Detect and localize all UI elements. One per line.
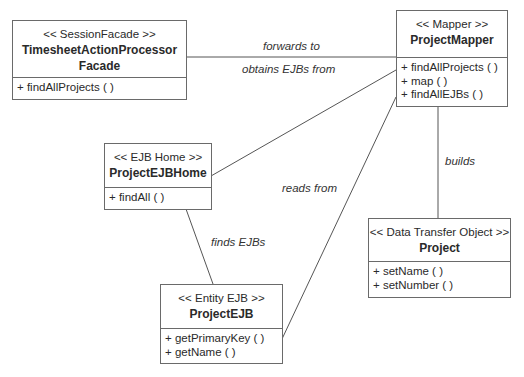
- class-name: ProjectEJBHome: [105, 165, 211, 181]
- label-finds-ejbs: finds EJBs: [211, 236, 265, 248]
- class-header: << EJB Home >> ProjectEJBHome: [105, 144, 211, 188]
- operations: + findAll ( ): [105, 188, 211, 205]
- class-project-mapper[interactable]: << Mapper >> ProjectMapper + findAllProj…: [396, 10, 508, 107]
- class-name: ProjectEJB: [161, 306, 282, 322]
- line-finds-ejbs: [186, 209, 213, 284]
- line-obtains-ejbs-from: [211, 70, 396, 176]
- class-header: << Data Transfer Object >> Project: [369, 219, 510, 262]
- stereotype: << Entity EJB >>: [161, 290, 282, 306]
- stereotype: << Data Transfer Object >>: [369, 224, 510, 240]
- class-project-ejb-home[interactable]: << EJB Home >> ProjectEJBHome + findAll …: [104, 143, 212, 210]
- operation: + findAllProjects ( ): [17, 81, 186, 95]
- class-name: ProjectMapper: [397, 32, 507, 48]
- label-obtains-ejbs-from: obtains EJBs from: [242, 63, 335, 75]
- class-header: << Entity EJB >> ProjectEJB: [161, 285, 282, 329]
- class-name: Project: [369, 240, 510, 256]
- label-forwards-to: forwards to: [263, 40, 320, 52]
- operations: + getPrimaryKey ( ) + getName ( ): [161, 329, 282, 359]
- class-timesheet-action-processor-facade[interactable]: << SessionFacade >> TimesheetActionProce…: [12, 20, 187, 100]
- class-header: << SessionFacade >> TimesheetActionProce…: [13, 21, 186, 78]
- operation: + setNumber ( ): [373, 279, 510, 293]
- class-project-dto[interactable]: << Data Transfer Object >> Project + set…: [368, 218, 511, 298]
- operations: + findAllProjects ( ): [13, 78, 186, 95]
- operation: + findAllProjects ( ): [401, 61, 507, 75]
- stereotype: << EJB Home >>: [105, 149, 211, 165]
- class-name-continued: Facade: [13, 58, 186, 74]
- operation: + getName ( ): [165, 346, 282, 360]
- operation: + map ( ): [401, 75, 507, 89]
- operation: + setName ( ): [373, 265, 510, 279]
- class-name: TimesheetActionProcessor: [13, 42, 186, 58]
- operations: + findAllProjects ( ) + map ( ) + findAl…: [397, 58, 507, 102]
- class-header: << Mapper >> ProjectMapper: [397, 11, 507, 58]
- stereotype: << SessionFacade >>: [13, 26, 186, 42]
- operation: + findAllEJBs ( ): [401, 88, 507, 102]
- label-reads-from: reads from: [282, 182, 337, 194]
- class-project-ejb[interactable]: << Entity EJB >> ProjectEJB + getPrimary…: [160, 284, 283, 364]
- operation: + findAll ( ): [109, 191, 211, 205]
- operations: + setName ( ) + setNumber ( ): [369, 262, 510, 292]
- operation: + getPrimaryKey ( ): [165, 332, 282, 346]
- label-builds: builds: [445, 155, 475, 167]
- stereotype: << Mapper >>: [397, 16, 507, 32]
